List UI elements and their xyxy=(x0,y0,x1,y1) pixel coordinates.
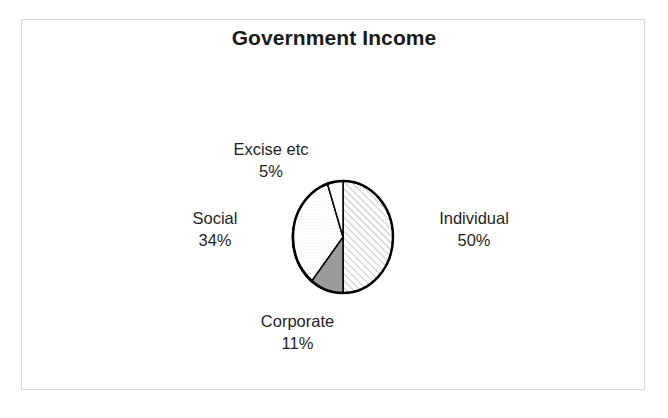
pie-label-individual-value: 50% xyxy=(404,230,544,252)
pie-label-excise-value: 5% xyxy=(196,161,346,183)
pie-label-social-name: Social xyxy=(150,208,280,230)
chart-screenshot: Government Income xyxy=(0,0,668,418)
pie-chart-plot-area xyxy=(292,180,394,294)
pie-label-corporate: Corporate 11% xyxy=(220,311,375,355)
pie-label-individual-name: Individual xyxy=(404,208,544,230)
pie-label-corporate-name: Corporate xyxy=(220,311,375,333)
chart-title: Government Income xyxy=(0,26,668,50)
pie-label-social: Social 34% xyxy=(150,208,280,252)
pie-label-individual: Individual 50% xyxy=(404,208,544,252)
pie-label-excise: Excise etc 5% xyxy=(196,139,346,183)
pie-label-excise-name: Excise etc xyxy=(196,139,346,161)
pie-label-corporate-value: 11% xyxy=(220,333,375,355)
pie-slice-individual[interactable] xyxy=(343,181,393,293)
pie-label-social-value: 34% xyxy=(150,230,280,252)
pie-chart-svg xyxy=(292,180,394,294)
